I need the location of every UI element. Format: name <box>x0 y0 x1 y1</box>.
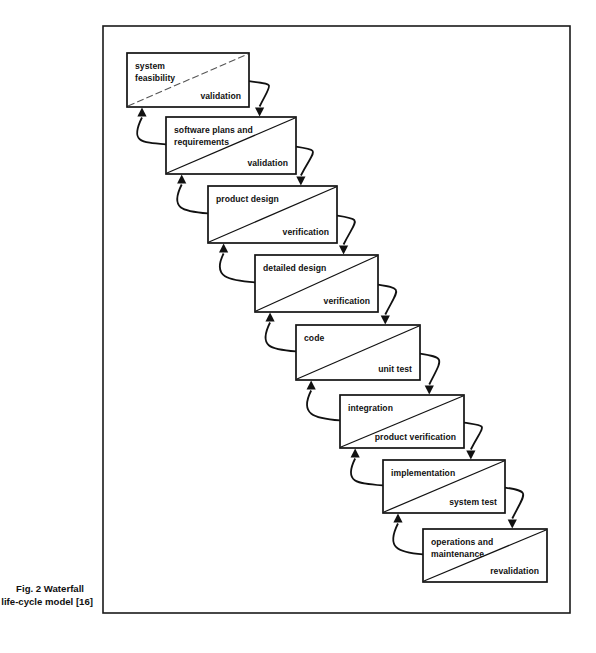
waterfall-figure: systemfeasibilityvalidationsoftware plan… <box>0 0 596 653</box>
waterfall-diagram-canvas: systemfeasibilityvalidationsoftware plan… <box>0 0 596 653</box>
phase-box-operations-and-maintenance[interactable]: operations andmaintenancerevalidation <box>423 529 547 582</box>
phase-box-code[interactable]: codeunit test <box>296 325 420 380</box>
phase-box-integration[interactable]: integrationproduct verification <box>340 395 464 448</box>
phase-box-software-plans-and-requirements[interactable]: software plans andrequirementsvalidation <box>166 117 296 174</box>
phase-sublabel-operations-and-maintenance: revalidation <box>490 566 539 576</box>
phase-label-operations-and-maintenance: operations and <box>431 537 493 547</box>
phase-label-software-plans-and-requirements: software plans and <box>174 125 253 135</box>
phase-sublabel-code: unit test <box>378 364 412 374</box>
phase-sublabel-product-design: verification <box>283 227 329 237</box>
phase-label-code: code <box>304 333 324 343</box>
phase-sublabel-implementation: system test <box>449 497 497 507</box>
phase-label-implementation: implementation <box>391 468 455 478</box>
phase-box-implementation[interactable]: implementationsystem test <box>383 460 505 513</box>
phase-label-system-feasibility: feasibility <box>135 73 175 83</box>
phase-label-detailed-design: detailed design <box>263 263 326 273</box>
caption-line-1: Fig. 2 Waterfall <box>16 583 84 594</box>
phase-label-system-feasibility: system <box>135 61 165 71</box>
phase-label-product-design: product design <box>216 194 279 204</box>
phase-sublabel-integration: product verification <box>375 432 456 442</box>
phase-sublabel-system-feasibility: validation <box>200 91 241 101</box>
phase-label-software-plans-and-requirements: requirements <box>174 137 229 147</box>
phase-box-detailed-design[interactable]: detailed designverification <box>255 255 378 312</box>
phase-label-integration: integration <box>348 403 393 413</box>
caption-line-2: life-cycle model [16] <box>1 596 93 607</box>
phase-box-product-design[interactable]: product designverification <box>208 186 337 243</box>
phase-box-system-feasibility[interactable]: systemfeasibilityvalidation <box>127 53 249 107</box>
phase-sublabel-detailed-design: verification <box>324 296 370 306</box>
phase-sublabel-software-plans-and-requirements: validation <box>247 158 288 168</box>
phase-label-operations-and-maintenance: maintenance <box>431 549 484 559</box>
